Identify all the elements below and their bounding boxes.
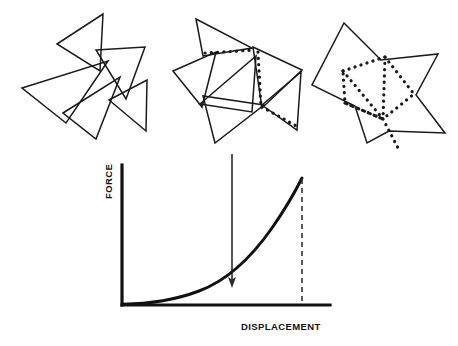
triangle-outline: [173, 52, 216, 107]
dotted-hinge-line: [262, 107, 300, 128]
force-curve: [123, 178, 302, 304]
structure-fully-collapsed-star: [312, 23, 445, 148]
y-axis-label: FORCE: [103, 164, 114, 199]
dotted-spoke: [383, 57, 385, 119]
structure-partially-collapsed: [173, 19, 302, 143]
dotted-hinge-line: [205, 50, 255, 53]
structure-expanded-pinwheel: [22, 14, 147, 139]
triangle-outline: [96, 47, 145, 99]
force-displacement-chart: FORCE DISPLACEMENT: [103, 164, 330, 332]
x-axis-label: DISPLACEMENT: [241, 321, 321, 332]
star-outline: [312, 23, 445, 143]
triangle-outline: [203, 96, 264, 143]
triangle-outline: [262, 72, 301, 130]
triangle-outline: [57, 14, 103, 71]
triangle-outline: [109, 80, 147, 131]
force-displacement-figure: FORCE DISPLACEMENT: [0, 0, 458, 346]
dotted-pentagon: [343, 57, 414, 119]
